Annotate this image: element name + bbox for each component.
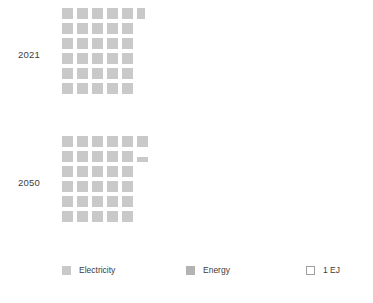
waffle-cell	[77, 83, 88, 94]
waffle-cell	[62, 68, 73, 79]
legend-label-energy: Energy	[203, 266, 230, 275]
legend-label-electricity: Electricity	[79, 266, 115, 275]
waffle-cell	[92, 8, 103, 19]
waffle-cell	[122, 166, 133, 177]
waffle-cell	[92, 53, 103, 64]
waffle-cell	[62, 211, 73, 222]
waffle-cell	[107, 181, 118, 192]
waffle-cell	[77, 181, 88, 192]
waffle-cell	[62, 151, 73, 162]
waffle-cell	[122, 68, 133, 79]
waffle-cell	[122, 8, 133, 19]
waffle-cell	[62, 23, 73, 34]
legend-item-electricity[interactable]: Electricity	[62, 266, 115, 275]
waffle-cell	[107, 196, 118, 207]
chart-legend: Electricity Energy 1 EJ	[0, 266, 373, 290]
waffle-cell	[77, 53, 88, 64]
waffle-cell	[77, 8, 88, 19]
waffle-cell	[107, 38, 118, 49]
legend-item-energy[interactable]: Energy	[186, 266, 230, 275]
waffle-cell	[77, 151, 88, 162]
waffle-cell	[62, 196, 73, 207]
waffle-cell	[122, 136, 133, 147]
waffle-cell	[122, 196, 133, 207]
waffle-grid-2050	[62, 136, 167, 228]
waffle-cell	[122, 23, 133, 34]
waffle-cell	[92, 211, 103, 222]
waffle-cell	[92, 38, 103, 49]
waffle-cell-partial	[137, 157, 148, 162]
waffle-group-2021: 2021	[0, 8, 167, 100]
waffle-cell	[92, 166, 103, 177]
waffle-group-2050: 2050	[0, 136, 167, 228]
waffle-cell	[107, 68, 118, 79]
waffle-cell	[77, 23, 88, 34]
waffle-cell	[62, 136, 73, 147]
waffle-cell	[77, 136, 88, 147]
waffle-cell	[62, 38, 73, 49]
waffle-cell	[107, 211, 118, 222]
waffle-cell	[107, 151, 118, 162]
waffle-cell	[107, 53, 118, 64]
legend-swatch-icon	[186, 266, 195, 275]
waffle-cell	[122, 38, 133, 49]
waffle-cell	[77, 211, 88, 222]
waffle-cell	[122, 181, 133, 192]
waffle-cell	[137, 136, 148, 147]
waffle-cell	[77, 68, 88, 79]
waffle-cell	[77, 196, 88, 207]
waffle-cell	[62, 166, 73, 177]
waffle-cell	[92, 151, 103, 162]
waffle-cell	[92, 196, 103, 207]
waffle-cell	[107, 166, 118, 177]
waffle-cell	[122, 53, 133, 64]
waffle-cell	[107, 83, 118, 94]
waffle-cell	[92, 68, 103, 79]
waffle-cell	[107, 8, 118, 19]
waffle-cell	[62, 181, 73, 192]
waffle-cell	[77, 166, 88, 177]
waffle-cell	[92, 83, 103, 94]
waffle-cell	[92, 23, 103, 34]
legend-swatch-icon	[62, 266, 71, 275]
waffle-cell	[62, 83, 73, 94]
waffle-cell	[107, 136, 118, 147]
waffle-cell	[92, 181, 103, 192]
waffle-cell	[107, 23, 118, 34]
legend-item-unit[interactable]: 1 EJ	[306, 266, 340, 275]
legend-label-unit: 1 EJ	[323, 266, 340, 275]
waffle-cell	[62, 8, 73, 19]
group-label-2050: 2050	[0, 177, 62, 188]
waffle-cell	[122, 151, 133, 162]
legend-swatch-outline-icon	[306, 266, 315, 275]
waffle-cell	[122, 83, 133, 94]
waffle-grid-2021	[62, 8, 167, 100]
waffle-cell-partial	[137, 8, 145, 19]
waffle-cell	[122, 211, 133, 222]
waffle-cell	[92, 136, 103, 147]
group-label-2021: 2021	[0, 49, 62, 60]
waffle-cell	[62, 53, 73, 64]
waffle-cell	[77, 38, 88, 49]
waffle-chart: 2021 2050 Electricity Energy 1 EJ	[0, 0, 373, 303]
